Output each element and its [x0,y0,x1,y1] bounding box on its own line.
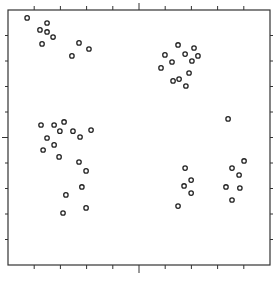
data-point-cluster-upper-left [38,28,42,32]
data-point-cluster-upper-right [159,66,163,70]
data-point-cluster-lower-right [230,166,234,170]
data-point-cluster-upper-left [51,35,55,39]
scatter-plot [0,0,274,283]
data-point-cluster-upper-right [184,84,188,88]
data-point-cluster-upper-right [196,54,200,58]
data-point-cluster-lower-right [226,117,230,121]
data-point-cluster-lower-right [182,184,186,188]
data-point-cluster-lower-left [64,193,68,197]
data-point-cluster-lower-right [183,166,187,170]
data-point-cluster-lower-left [58,129,62,133]
data-point-cluster-upper-left [87,47,91,51]
data-point-cluster-lower-right [237,173,241,177]
data-point-cluster-upper-right [183,52,187,56]
data-point-cluster-upper-right [177,77,181,81]
data-point-cluster-upper-left [70,54,74,58]
data-point-cluster-upper-left [45,21,49,25]
data-point-cluster-lower-left [45,136,49,140]
data-point-cluster-upper-right [163,53,167,57]
data-point-cluster-upper-right [187,71,191,75]
data-point-cluster-lower-left [77,160,81,164]
data-point-cluster-upper-left [40,42,44,46]
data-point-cluster-lower-right [242,159,246,163]
data-point-cluster-lower-left [57,155,61,159]
data-point-cluster-upper-left [77,41,81,45]
data-point-cluster-lower-left [84,169,88,173]
data-point-cluster-lower-left [39,123,43,127]
data-point-cluster-lower-right [176,204,180,208]
data-point-cluster-upper-right [171,79,175,83]
data-point-cluster-lower-left [78,135,82,139]
data-point-cluster-lower-right [189,191,193,195]
data-point-cluster-lower-left [52,143,56,147]
data-point-cluster-lower-left [89,128,93,132]
data-point-cluster-upper-right [192,46,196,50]
data-point-cluster-upper-left [45,30,49,34]
data-point-cluster-upper-right [190,59,194,63]
data-point-cluster-lower-right [224,185,228,189]
data-point-cluster-lower-left [62,120,66,124]
data-point-cluster-lower-left [52,123,56,127]
data-point-cluster-lower-left [80,185,84,189]
data-point-cluster-lower-left [84,206,88,210]
data-point-cluster-upper-right [170,60,174,64]
data-point-cluster-upper-left [25,16,29,20]
data-point-cluster-upper-right [176,43,180,47]
data-point-cluster-lower-left [41,148,45,152]
data-point-cluster-lower-right [238,186,242,190]
data-point-cluster-lower-left [71,129,75,133]
data-points [25,16,246,215]
plot-canvas [0,0,274,283]
data-point-cluster-lower-left [61,211,65,215]
data-point-cluster-lower-right [189,178,193,182]
data-point-cluster-lower-right [230,198,234,202]
